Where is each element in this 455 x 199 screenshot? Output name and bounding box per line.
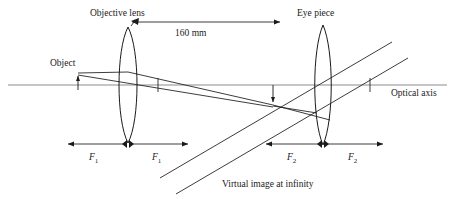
ray-image-to-eyepiece-upper	[273, 105, 330, 120]
microscope-ray-diagram: Objective lens Eye piece 160 mm Object O…	[0, 0, 455, 199]
f2-left-inner-arrowhead	[317, 140, 322, 148]
virtual-image-ray-lower	[176, 58, 408, 194]
f1-right-label: F1	[151, 152, 162, 165]
f1-left-inner-arrowhead	[122, 140, 127, 148]
f1-left-label: F1	[88, 152, 99, 165]
f2-right-label: F2	[347, 152, 358, 165]
objective-lens-label: Objective lens	[90, 8, 145, 18]
object-label: Object	[50, 58, 76, 68]
virtual-image-label: Virtual image at infinity	[222, 179, 314, 189]
optical-axis-label: Optical axis	[391, 88, 437, 98]
eye-piece-label: Eye piece	[297, 8, 334, 18]
f1-right-inner-arrowhead	[129, 140, 134, 148]
ray-parallel-to-axis	[78, 72, 273, 105]
tube-length-label: 160 mm	[175, 28, 207, 38]
tube-length-left-tip-a	[131, 22, 134, 26]
optical-diagram-root: Objective lens Eye piece 160 mm Object O…	[0, 0, 455, 199]
ray-through-lens-center	[78, 75, 273, 107]
f2-left-label: F2	[286, 152, 297, 165]
f2-right-inner-arrowhead	[324, 140, 329, 148]
